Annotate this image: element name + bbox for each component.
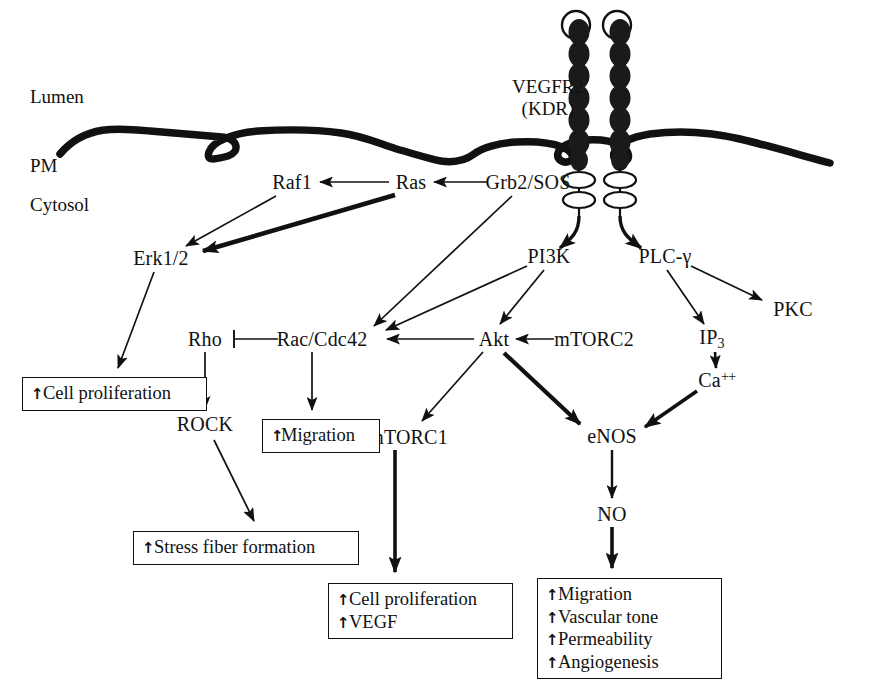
edge-plcg-to-pkc [691,266,762,300]
node-rock[interactable]: ROCK [177,414,233,434]
edge-rock-to-stress-fiber [214,440,254,521]
outcome-box-migration: ↑Migration [262,419,380,453]
outcome-line: ↑Cell proliferation [337,588,503,611]
edge-ip3-to-ca [715,352,716,368]
node-raf1[interactable]: Raf1 [272,172,312,192]
outcome-line: ↑VEGF [337,611,503,634]
edge-plcg-to-ip3 [667,270,704,324]
receptor-label: VEGFR2 (KDR) [512,76,584,120]
diagram-vector-layer [0,0,870,681]
outcome-line: ↑Migration [546,583,712,606]
outcome-line: ↑Permeability [546,628,712,651]
edge-pi3k-to-rac [386,266,527,330]
pathway-diagram: Lumen PM Cytosol VEGFR2 (KDR) Raf1 Ras G… [0,0,870,681]
outcome-line: ↑Angiogenesis [546,651,712,674]
node-calcium[interactable]: Ca++ [698,370,735,390]
node-ras[interactable]: Ras [396,172,427,192]
node-no[interactable]: NO [597,504,626,524]
edge-raf1-to-erk12 [186,196,276,246]
node-enos[interactable]: eNOS [587,426,637,446]
compartment-label-pm: PM [30,155,57,177]
up-arrow-icon: ↑ [271,427,281,445]
receptor-name-line2: (KDR) [512,98,584,120]
receptor-name-line1: VEGFR2 [512,76,584,98]
node-pkc[interactable]: PKC [773,299,813,319]
edge-ca-to-enos [645,391,697,427]
node-akt[interactable]: Akt [479,329,510,349]
receptor-effector-arrows [560,216,641,248]
node-ip3[interactable]: IP3 [699,327,724,351]
calcium-superscript: ++ [721,369,736,384]
outcome-box-cell-proliferation: ↑Cell proliferation [22,377,207,411]
node-rho[interactable]: Rho [188,329,222,349]
node-plc-gamma[interactable]: PLC-γ [638,246,691,266]
node-pi3k[interactable]: PI3K [527,246,570,266]
ip3-subscript: 3 [717,336,724,351]
edge-akt-to-enos [504,353,580,424]
up-arrow-icon: ↑ [337,614,349,632]
outcome-line: ↑Cell proliferation [31,382,197,405]
up-arrow-icon: ↑ [31,385,43,403]
edge-rho-inhibits-rac [234,330,278,348]
node-grb2-sos[interactable]: Grb2/SOS [486,172,571,192]
edge-akt-to-mtorc1 [422,352,483,421]
node-mtorc2[interactable]: mTORC2 [554,329,634,349]
outcome-box-stress-fiber-formation: ↑Stress fiber formation [133,531,359,565]
up-arrow-icon: ↑ [546,631,558,649]
compartment-label-lumen: Lumen [30,86,84,108]
edge-grb2sos-to-rac [374,196,512,326]
edge-erk12-to-proliferation [118,272,154,368]
edge-pi3k-to-akt [500,270,544,324]
node-mtorc1[interactable]: mTORC1 [368,427,448,447]
plasma-membrane [60,129,830,163]
up-arrow-icon: ↑ [546,609,558,627]
up-arrow-icon: ↑ [546,654,558,672]
outcome-line: ↑Migration [271,424,370,447]
edge-ras-to-erk12 [203,195,395,251]
node-erk1-2[interactable]: Erk1/2 [133,248,189,268]
up-arrow-icon: ↑ [142,539,154,557]
compartment-label-cytosol: Cytosol [30,194,89,216]
node-rac-cdc42[interactable]: Rac/Cdc42 [277,329,368,349]
up-arrow-icon: ↑ [546,586,558,604]
outcome-box-proliferation-vegf: ↑Cell proliferation ↑VEGF [328,583,513,639]
outcome-line: ↑Stress fiber formation [142,536,349,559]
outcome-box-no-effects: ↑Migration ↑Vascular tone ↑Permeability … [537,578,722,679]
outcome-line: ↑Vascular tone [546,606,712,629]
up-arrow-icon: ↑ [337,591,349,609]
